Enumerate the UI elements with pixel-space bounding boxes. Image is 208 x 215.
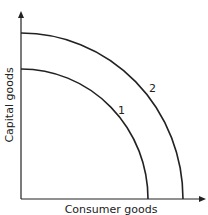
ppf-curve-1: [21, 69, 148, 199]
curve-2-label: 2: [149, 82, 156, 95]
ppf-curve-2: [21, 33, 183, 199]
ppf-chart: 1 2 Consumer goods Capital goods: [0, 0, 208, 215]
curve-1-label: 1: [118, 104, 125, 117]
x-axis-label: Consumer goods: [65, 203, 158, 215]
y-axis-arrow-icon: [18, 11, 24, 18]
x-axis-arrow-icon: [199, 196, 206, 202]
y-axis-label: Capital goods: [3, 67, 16, 142]
